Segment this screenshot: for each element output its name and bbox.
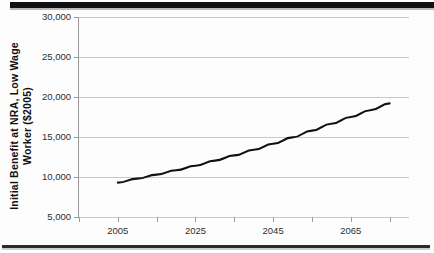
series-line-initial-benefit [118, 103, 390, 182]
y-tick-label-5000: 5,000 [11, 211, 71, 222]
y-tick-label-30000: 30,000 [11, 11, 71, 22]
x-tick-mark-2045 [273, 217, 274, 222]
scan-rule-top [10, 2, 434, 8]
x-tick-mark-2015 [157, 217, 158, 222]
x-tick-mark-2025 [195, 217, 196, 222]
y-tick-label-25000: 25,000 [11, 51, 71, 62]
y-tick-label-20000: 20,000 [11, 91, 71, 102]
y-tick-label-10000: 10,000 [11, 171, 71, 182]
x-tick-mark-2075 [390, 217, 391, 222]
gridline-5000 [79, 217, 409, 218]
y-axis-title-line1: Initial Benefit at NRA, Low Wage [8, 42, 20, 210]
x-tick-mark-2055 [312, 217, 313, 222]
x-tick-mark-2035 [234, 217, 235, 222]
x-tick-label-2005: 2005 [88, 225, 148, 236]
x-tick-mark-1995 [79, 217, 80, 222]
y-tick-label-15000: 15,000 [11, 131, 71, 142]
plot-area: 5,00010,00015,00020,00025,00030,000 2005… [78, 17, 409, 217]
x-tick-label-2045: 2045 [243, 225, 303, 236]
series-line-layer [79, 17, 409, 217]
scan-rule-bottom [2, 245, 430, 248]
chart-figure: Initial Benefit at NRA, Low Wage Worker … [0, 0, 434, 253]
x-tick-label-2025: 2025 [165, 225, 225, 236]
x-tick-mark-2005 [118, 217, 119, 222]
x-tick-mark-2065 [351, 217, 352, 222]
x-tick-label-2065: 2065 [321, 225, 381, 236]
y-axis-title-line2: Worker ($2005) [21, 42, 34, 210]
